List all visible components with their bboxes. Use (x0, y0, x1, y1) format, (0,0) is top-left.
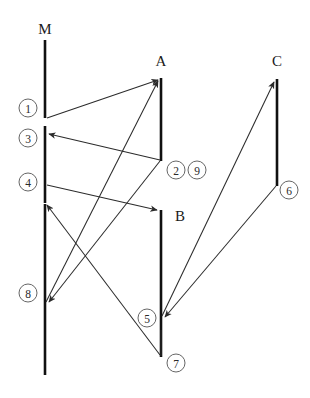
seq-badge-8-label: 8 (25, 288, 31, 300)
seq-badge-5-label: 5 (144, 313, 150, 325)
seq-badge-3-label: 3 (25, 133, 31, 145)
message-arrow-9 (46, 81, 158, 302)
seq-badge-9-label: 9 (194, 165, 200, 177)
seq-badge-5: 5 (138, 309, 156, 327)
seq-badge-6-label: 6 (286, 185, 292, 197)
lifeline-label-m: M (38, 21, 51, 37)
lifeline-label-a: A (156, 53, 167, 69)
message-arrow-3 (47, 205, 160, 355)
seq-badge-1-label: 1 (25, 103, 31, 115)
seq-badge-7: 7 (167, 354, 185, 372)
seq-badge-1: 1 (19, 99, 37, 117)
message-arrow-1 (47, 80, 158, 118)
seq-badge-2-label: 2 (173, 165, 179, 177)
sequence-diagram-canvas: M A B C (0, 0, 310, 398)
seq-badge-2: 2 (167, 161, 185, 179)
message-arrow-4 (47, 185, 157, 210)
message-arrow-2 (49, 134, 160, 160)
message-arrow-6 (162, 82, 274, 316)
seq-badge-7-label: 7 (173, 358, 179, 370)
seq-badge-8: 8 (19, 284, 37, 302)
seq-badge-6: 6 (280, 181, 298, 199)
sequence-diagram-svg: M A B C (0, 0, 310, 398)
message-arrow-5 (165, 186, 276, 317)
seq-badge-9: 9 (188, 161, 206, 179)
seq-badge-3: 3 (19, 129, 37, 147)
seq-badge-4: 4 (19, 173, 37, 191)
seq-badge-4-label: 4 (25, 177, 31, 189)
lifeline-label-c: C (272, 53, 282, 69)
lifeline-label-b: B (175, 208, 185, 224)
